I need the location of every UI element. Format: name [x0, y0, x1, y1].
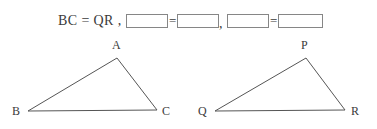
figure-triangle-abc: A B C — [0, 36, 190, 129]
congruence-statement-row: BC = QR , = , = — [0, 9, 377, 33]
blank-group-2: = — [227, 9, 323, 33]
geometry-worksheet: BC = QR , = , = A B C P Q R — [0, 0, 377, 129]
statement-separator-comma: , — [219, 9, 223, 33]
blank-input-3[interactable] — [227, 14, 269, 28]
blank-input-4[interactable] — [278, 14, 323, 28]
blank-group-1: = — [126, 9, 219, 33]
vertex-label-c: C — [162, 104, 170, 118]
congruence-prefix-text: BC = QR , — [58, 9, 122, 33]
vertex-label-a: A — [112, 38, 121, 52]
triangle-pqr-outline — [215, 58, 345, 111]
vertex-label-p: P — [301, 38, 308, 52]
blank-input-1[interactable] — [126, 14, 168, 28]
equals-sign-2: = — [269, 14, 278, 28]
triangle-abc-svg: A B C — [0, 36, 190, 129]
triangle-abc-outline — [28, 58, 157, 111]
vertex-label-b: B — [12, 104, 20, 118]
triangle-pqr-svg: P Q R — [188, 36, 377, 129]
equals-sign-1: = — [168, 14, 177, 28]
figure-triangle-pqr: P Q R — [188, 36, 377, 129]
vertex-label-q: Q — [198, 104, 207, 118]
blank-input-2[interactable] — [177, 14, 219, 28]
vertex-label-r: R — [351, 104, 359, 118]
